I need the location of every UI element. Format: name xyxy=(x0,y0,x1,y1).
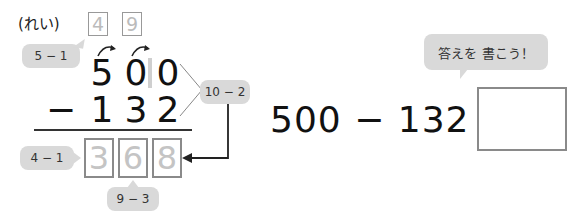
hint-bubble-hundreds-borrow: 5 − 1 xyxy=(22,44,80,68)
answer-input-box[interactable] xyxy=(477,87,567,151)
answer-digit-hundreds: 3 xyxy=(84,138,114,178)
hint-bubble-tens: 9 − 3 xyxy=(107,187,159,211)
top-digit-tens: 0 xyxy=(122,53,150,93)
instruction-text: 答えを 書こう！ xyxy=(438,43,533,62)
hint-bubble-ones: 10 − 2 xyxy=(200,80,250,104)
answer-digit-tens: 6 xyxy=(118,138,148,178)
example-label: (れい) xyxy=(18,12,60,33)
borrow-box-tens: 9 xyxy=(122,12,142,36)
operator-minus: − xyxy=(46,90,74,130)
hint-text: 5 − 1 xyxy=(35,49,68,63)
hint-text: 10 − 2 xyxy=(205,85,246,99)
borrow-box-hundreds: 4 xyxy=(88,12,108,36)
hint-text: 9 − 3 xyxy=(117,192,150,206)
strike-mark xyxy=(148,58,152,88)
hint-bubble-hundreds: 4 − 1 xyxy=(20,146,74,170)
sum-line xyxy=(34,129,192,131)
top-digit-hundreds: 5 xyxy=(88,53,116,93)
answer-digit-ones: 8 xyxy=(152,138,182,178)
bottom-digit-tens: 3 xyxy=(122,90,150,130)
bottom-digit-hundreds: 1 xyxy=(88,90,116,130)
hint-text: 4 − 1 xyxy=(31,151,64,165)
arrow-icon xyxy=(180,104,230,164)
instruction-bubble: 答えを 書こう！ xyxy=(424,34,548,70)
